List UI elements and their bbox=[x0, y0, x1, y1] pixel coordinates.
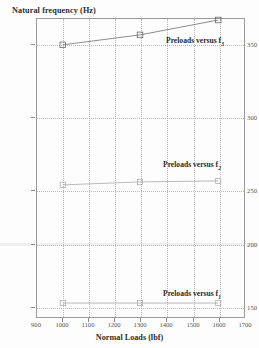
y-tick-mark-150 bbox=[31, 307, 35, 308]
x-tick-mark-1100 bbox=[88, 318, 89, 322]
chart-figure: Natural frequency (Hz) 350 300 250 200 1… bbox=[0, 0, 259, 348]
x-tick-mark-1400 bbox=[166, 318, 167, 322]
annotation-f3-subscript: 3 bbox=[221, 41, 224, 47]
annotation-f1-subscript: 1 bbox=[218, 294, 221, 300]
y-tick-mark-350 bbox=[31, 44, 35, 45]
annotation-series-f1: Preloads versus f1 bbox=[163, 289, 221, 300]
x-tick-mark-1600 bbox=[219, 318, 220, 322]
y-axis-title: Natural frequency (Hz) bbox=[12, 6, 96, 15]
x-tick-label-1700: 1700 bbox=[230, 321, 259, 328]
series-f2 bbox=[60, 178, 221, 187]
series-f1 bbox=[60, 301, 221, 306]
x-tick-mark-1000 bbox=[62, 318, 63, 322]
annotation-series-f2: Preloads versus f2 bbox=[163, 160, 221, 171]
annotation-series-f3: Preloads versus f3 bbox=[166, 36, 224, 47]
y-tick-mark-250 bbox=[31, 190, 35, 191]
annotation-f2-text: Preloads versus f bbox=[163, 160, 218, 169]
x-tick-label-1400: 1400 bbox=[151, 321, 181, 328]
x-tick-mark-1200 bbox=[114, 318, 115, 322]
x-tick-mark-1500 bbox=[193, 318, 194, 322]
x-tick-mark-1300 bbox=[140, 318, 141, 322]
y-tick-mark-200 bbox=[31, 244, 35, 245]
annotation-f3-text: Preloads versus f bbox=[166, 36, 221, 45]
x-axis-title: Normal Loads (lbf) bbox=[0, 333, 259, 342]
annotation-f1-text: Preloads versus f bbox=[163, 289, 218, 298]
y-tick-mark-300 bbox=[31, 117, 35, 118]
annotation-f2-subscript: 2 bbox=[218, 165, 221, 171]
